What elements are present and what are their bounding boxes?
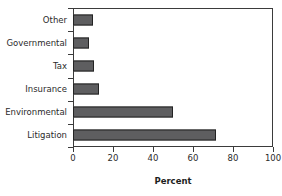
y-axis-tick-label: Insurance [25, 78, 67, 101]
x-axis-tick-mark [193, 147, 194, 152]
bar [73, 84, 99, 95]
y-axis-tick-mark [68, 8, 73, 9]
y-axis-tick-mark [68, 31, 73, 32]
y-axis-tick-label: Governmental [6, 31, 67, 54]
bar-row [73, 8, 273, 31]
x-axis-tick-mark [233, 147, 234, 152]
chart-title [0, 0, 282, 3]
y-axis-tick-mark [68, 101, 73, 102]
x-axis-tick-label: 80 [228, 153, 239, 163]
x-axis-tick-mark [153, 147, 154, 152]
x-axis-tick-mark [73, 147, 74, 152]
y-axis-tick-mark [68, 78, 73, 79]
bar-row [73, 31, 273, 54]
bars-layer [73, 8, 273, 147]
y-axis-category-labels: OtherGovernmentalTaxInsuranceEnvironment… [0, 8, 71, 147]
x-axis-tick-mark [113, 147, 114, 152]
x-axis-tick-label: 100 [265, 153, 281, 163]
x-axis-title: Percent [73, 176, 273, 186]
x-axis-tick-mark [273, 147, 274, 152]
y-axis-tick-label: Tax [53, 54, 67, 77]
bar [73, 37, 89, 48]
bar [73, 130, 216, 141]
x-axis-tick-label: 20 [108, 153, 119, 163]
y-axis-tick-label: Other [43, 8, 67, 31]
bar-row [73, 78, 273, 101]
bar-row [73, 54, 273, 77]
bar [73, 107, 173, 118]
x-axis-tick-label: 60 [188, 153, 199, 163]
bar-row [73, 101, 273, 124]
x-axis-tick-label: 40 [148, 153, 159, 163]
chart-screenshot: OtherGovernmentalTaxInsuranceEnvironment… [0, 0, 282, 196]
bar [73, 14, 93, 25]
bar [73, 60, 94, 71]
x-axis-tick-label: 0 [70, 153, 75, 163]
y-axis-tick-mark [68, 124, 73, 125]
y-axis-tick-label: Environmental [5, 101, 67, 124]
y-axis-tick-mark [68, 54, 73, 55]
bar-row [73, 124, 273, 147]
y-axis-tick-label: Litigation [27, 124, 67, 147]
